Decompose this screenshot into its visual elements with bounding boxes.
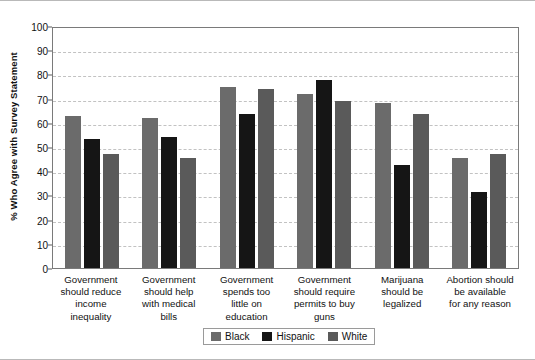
bar-group — [208, 28, 286, 268]
bar-group — [286, 28, 364, 268]
legend-item-hispanic[interactable]: Hispanic — [262, 331, 314, 342]
chart-legend: BlackHispanicWhite — [203, 328, 375, 345]
category-label-line: income — [53, 298, 129, 310]
category-label-line: spends too — [209, 286, 285, 298]
category-label-6: Abortion shouldbe availablefor any reaso… — [441, 271, 519, 333]
category-label-line: Government — [53, 274, 129, 286]
category-label-line: Abortion should — [442, 274, 518, 286]
y-axis-tick-labels: 0102030405060708090100 — [26, 27, 52, 269]
plot-area — [52, 27, 519, 269]
bar-hispanic-3 — [239, 114, 255, 268]
category-label-5: Marijuanashould belegalized — [363, 271, 441, 333]
bar-hispanic-2 — [161, 137, 177, 268]
bar-hispanic-5 — [394, 165, 410, 268]
y-axis-title: % Who Agree with Survey Statement — [0, 1, 26, 271]
legend-label: Hispanic — [276, 331, 314, 342]
category-label-line: inequality — [53, 311, 129, 323]
bar-group — [441, 28, 519, 268]
bar-group — [131, 28, 209, 268]
category-label-line: legalized — [364, 298, 440, 310]
category-label-line: Government — [131, 274, 207, 286]
category-label-line: little on — [209, 298, 285, 310]
category-label-line: for any reason — [442, 298, 518, 310]
category-label-line: Marijuana — [364, 274, 440, 286]
legend-swatch-icon — [262, 332, 272, 341]
category-label-4: Governmentshould requirepermits to buygu… — [285, 271, 363, 333]
bar-hispanic-4 — [316, 80, 332, 268]
y-axis-tick-100: 100 — [31, 22, 48, 33]
category-label-line: Government — [286, 274, 362, 286]
bar-hispanic-6 — [471, 192, 487, 268]
category-label-line: permits to buy — [286, 298, 362, 310]
category-label-1: Governmentshould reduceincomeinequality — [52, 271, 130, 333]
bar-black-6 — [452, 158, 468, 268]
category-label-line: should be — [364, 286, 440, 298]
legend-swatch-icon — [328, 332, 338, 341]
y-axis-tick-20: 20 — [37, 215, 48, 226]
legend-label: Black — [225, 331, 249, 342]
legend-item-white[interactable]: White — [328, 331, 368, 342]
y-axis-tick-80: 80 — [37, 70, 48, 81]
x-axis-category-labels: Governmentshould reduceincomeinequalityG… — [52, 271, 519, 333]
legend-swatch-icon — [211, 332, 221, 341]
y-axis-tick-90: 90 — [37, 46, 48, 57]
category-label-line: be available — [442, 286, 518, 298]
category-label-2: Governmentshould helpwith medicalbills — [130, 271, 208, 333]
bar-black-4 — [297, 94, 313, 268]
bar-white-5 — [413, 114, 429, 268]
y-axis-title-text: % Who Agree with Survey Statement — [8, 52, 19, 221]
bar-white-6 — [490, 154, 506, 268]
y-axis-tick-30: 30 — [37, 191, 48, 202]
bar-white-1 — [103, 154, 119, 268]
legend-item-black[interactable]: Black — [211, 331, 249, 342]
bar-black-1 — [65, 116, 81, 268]
bar-black-5 — [375, 103, 391, 268]
y-axis-tick-40: 40 — [37, 167, 48, 178]
bar-black-2 — [142, 118, 158, 268]
category-label-3: Governmentspends toolittle oneducation — [208, 271, 286, 333]
legend-label: White — [342, 331, 368, 342]
bar-white-4 — [335, 101, 351, 268]
bar-chart-figure: % Who Agree with Survey Statement 010203… — [0, 0, 535, 360]
bar-group — [53, 28, 131, 268]
bar-white-3 — [258, 89, 274, 268]
category-label-line: guns — [286, 311, 362, 323]
y-axis-tick-10: 10 — [37, 239, 48, 250]
category-label-line: should help — [131, 286, 207, 298]
bar-black-3 — [220, 87, 236, 269]
category-label-line: with medical — [131, 298, 207, 310]
category-label-line: Government — [209, 274, 285, 286]
bar-hispanic-1 — [84, 139, 100, 268]
category-label-line: should reduce — [53, 286, 129, 298]
bar-white-2 — [180, 158, 196, 268]
category-label-line: education — [209, 311, 285, 323]
y-axis-tick-60: 60 — [37, 118, 48, 129]
y-axis-tick-50: 50 — [37, 143, 48, 154]
category-label-line: bills — [131, 311, 207, 323]
category-label-line: should require — [286, 286, 362, 298]
bar-groups — [53, 28, 518, 268]
y-axis-tick-70: 70 — [37, 94, 48, 105]
bar-group — [363, 28, 441, 268]
